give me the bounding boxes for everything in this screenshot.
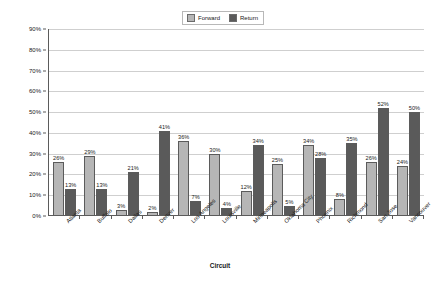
bar-forward: 26% bbox=[366, 162, 377, 216]
bar-value-label: 7% bbox=[192, 194, 200, 200]
bar-value-label: 12% bbox=[241, 184, 252, 190]
bar-group: 26%13% bbox=[49, 29, 80, 216]
bar-group: 12%34% bbox=[237, 29, 268, 216]
legend-label-return: Return bbox=[240, 15, 258, 21]
bar-value-label: 8% bbox=[336, 192, 344, 198]
x-axis-label-cell: Vancouver bbox=[393, 219, 424, 259]
x-axis-label-cell: Phoenix bbox=[299, 219, 330, 259]
y-axis-tick-mark bbox=[43, 29, 46, 30]
legend-entry-return: Return bbox=[229, 14, 258, 22]
bar-value-label: 41% bbox=[159, 124, 170, 130]
bar-value-label: 34% bbox=[303, 138, 314, 144]
bar-value-label: 21% bbox=[128, 165, 139, 171]
bar-group: 34%28% bbox=[299, 29, 330, 216]
y-axis-tick-labels: 90%80%70%60%50%40%30%20%10%0% bbox=[0, 29, 46, 216]
bar-group: 25%5% bbox=[268, 29, 299, 216]
y-axis-tick-mark bbox=[43, 216, 46, 217]
y-axis-tick-mark bbox=[43, 70, 46, 71]
bar-return: 50% bbox=[409, 112, 420, 216]
bar-value-label: 13% bbox=[96, 182, 107, 188]
bar-return: 34% bbox=[253, 145, 264, 216]
bar-value-label: 52% bbox=[378, 101, 389, 107]
x-axis-label-cell: Dallas bbox=[112, 219, 143, 259]
x-axis-label-cell: Los Angeles bbox=[174, 219, 205, 259]
y-axis-tick-label: 10% bbox=[29, 192, 41, 198]
bar-value-label: 26% bbox=[366, 155, 377, 161]
bar-value-label: 3% bbox=[117, 203, 125, 209]
forward-swatch-icon bbox=[187, 14, 195, 22]
y-axis-tick-label: 40% bbox=[29, 130, 41, 136]
bar-value-label: 29% bbox=[84, 149, 95, 155]
bar-value-label: 28% bbox=[315, 151, 326, 157]
x-axis-label-cell: Denver bbox=[143, 219, 174, 259]
x-axis-label-cell: Buffalo bbox=[80, 219, 111, 259]
bar-group: 24%50% bbox=[393, 29, 424, 216]
bar-value-label: 26% bbox=[53, 155, 64, 161]
legend-label-forward: Forward bbox=[198, 15, 220, 21]
y-axis-tick-mark bbox=[43, 174, 46, 175]
return-swatch-icon bbox=[229, 14, 237, 22]
y-axis-tick-mark bbox=[43, 153, 46, 154]
x-axis-tick-labels: AtlantaBuffaloDallasDenverLos AngelesLou… bbox=[49, 219, 424, 259]
bar-forward: 36% bbox=[178, 141, 189, 216]
bar-value-label: 35% bbox=[346, 136, 357, 142]
bar-group: 26%52% bbox=[362, 29, 393, 216]
y-axis-tick-mark bbox=[43, 49, 46, 50]
bar-group: 3%21% bbox=[112, 29, 143, 216]
bar-return: 28% bbox=[315, 158, 326, 216]
y-axis-tick-mark bbox=[43, 195, 46, 196]
bar-group: 36%7% bbox=[174, 29, 205, 216]
chart-legend: Forward Return bbox=[182, 11, 264, 25]
bar-forward: 26% bbox=[53, 162, 64, 216]
bar-groups: 26%13%29%13%3%21%2%41%36%7%30%4%12%34%25… bbox=[49, 29, 424, 216]
y-axis-tick-label: 30% bbox=[29, 151, 41, 157]
bar-forward: 12% bbox=[241, 191, 252, 216]
bar-value-label: 36% bbox=[178, 134, 189, 140]
bar-group: 30%4% bbox=[205, 29, 236, 216]
bar-value-label: 4% bbox=[223, 201, 231, 207]
bar-chart: Forward Return Percent Utilization 90%80… bbox=[0, 0, 440, 281]
legend-entry-forward: Forward bbox=[187, 14, 220, 22]
x-axis-label-cell: Atlanta bbox=[49, 219, 80, 259]
bar-group: 8%35% bbox=[330, 29, 361, 216]
bar-value-label: 50% bbox=[409, 105, 420, 111]
x-axis-label-cell: San Jose bbox=[362, 219, 393, 259]
bar-value-label: 34% bbox=[253, 138, 264, 144]
y-axis-tick-mark bbox=[43, 132, 46, 133]
x-axis-title: Circuit bbox=[0, 262, 440, 269]
bar-value-label: 24% bbox=[397, 159, 408, 165]
bar-return: 41% bbox=[159, 131, 170, 216]
bar-forward: 8% bbox=[334, 199, 345, 216]
y-axis-tick-label: 80% bbox=[29, 47, 41, 53]
bar-value-label: 5% bbox=[285, 199, 293, 205]
bar-forward: 24% bbox=[397, 166, 408, 216]
y-axis-tick-label: 60% bbox=[29, 88, 41, 94]
y-axis-tick-label: 90% bbox=[29, 26, 41, 32]
bar-value-label: 2% bbox=[148, 205, 156, 211]
y-axis-tick-label: 20% bbox=[29, 171, 41, 177]
x-axis-label-cell: Minneapolis bbox=[237, 219, 268, 259]
y-axis-tick-label: 70% bbox=[29, 68, 41, 74]
bar-group: 2%41% bbox=[143, 29, 174, 216]
bar-group: 29%13% bbox=[80, 29, 111, 216]
bar-value-label: 30% bbox=[209, 147, 220, 153]
bar-forward: 29% bbox=[84, 156, 95, 216]
x-axis-label-cell: Louisville bbox=[205, 219, 236, 259]
x-axis-label-cell: Richmond bbox=[330, 219, 361, 259]
y-axis-tick-mark bbox=[43, 91, 46, 92]
bar-value-label: 13% bbox=[65, 182, 76, 188]
y-axis-tick-mark bbox=[43, 112, 46, 113]
y-axis-tick-label: 0% bbox=[32, 213, 41, 219]
x-axis-label-cell: Oklahoma City bbox=[268, 219, 299, 259]
bar-forward: 25% bbox=[272, 164, 283, 216]
bar-return: 52% bbox=[378, 108, 389, 216]
bar-return: 35% bbox=[346, 143, 357, 216]
bar-value-label: 25% bbox=[272, 157, 283, 163]
y-axis-tick-label: 50% bbox=[29, 109, 41, 115]
